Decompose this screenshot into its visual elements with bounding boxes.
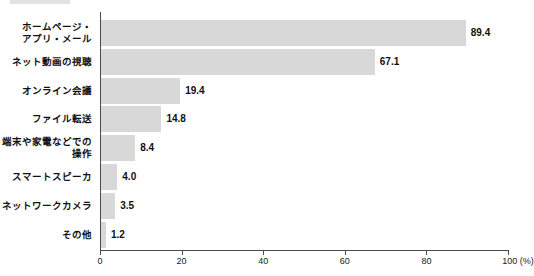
category-label: オンライン会議 — [0, 85, 92, 97]
bar-row: スマートスピーカ4.0 — [0, 164, 516, 190]
x-tick-100 — [508, 250, 509, 255]
category-label: ファイル転送 — [0, 113, 92, 125]
x-tick-20 — [182, 250, 183, 255]
category-label: ネットワークカメラ — [0, 200, 92, 212]
x-tick-label-40: 40 — [258, 256, 268, 267]
value-label: 3.5 — [120, 200, 134, 212]
bar — [101, 106, 161, 132]
bar — [101, 193, 115, 219]
value-label: 8.4 — [140, 142, 154, 154]
value-label: 1.2 — [111, 229, 125, 241]
bar — [101, 222, 106, 248]
value-label: 4.0 — [122, 171, 136, 183]
x-tick-40 — [263, 250, 264, 255]
category-label: ホームページ・ アプリ・メール — [0, 21, 92, 45]
x-tick-label-20: 20 — [177, 256, 187, 267]
category-label: ネット動画の視聴 — [0, 56, 92, 68]
x-tick-label-100: 100 (%) — [502, 256, 534, 267]
bar — [101, 135, 135, 161]
x-tick-label-80: 80 — [421, 256, 431, 267]
value-label: 19.4 — [185, 85, 204, 97]
category-label: 端末や家電などでの 操作 — [0, 136, 92, 160]
bar-row: 端末や家電などでの 操作8.4 — [0, 135, 516, 161]
bar — [101, 49, 375, 75]
bar — [101, 20, 466, 46]
bar-row: オンライン会議19.4 — [0, 78, 516, 104]
x-tick-80 — [426, 250, 427, 255]
bar-row: ファイル転送14.8 — [0, 106, 516, 132]
bar — [101, 164, 117, 190]
x-tick-60 — [345, 250, 346, 255]
category-label: スマートスピーカ — [0, 171, 92, 183]
category-label: その他 — [0, 229, 92, 241]
bar-row: ネットワークカメラ3.5 — [0, 193, 516, 219]
x-tick-label-60: 60 — [340, 256, 350, 267]
bar-row: その他1.2 — [0, 222, 516, 248]
bar-row: ホームページ・ アプリ・メール89.4 — [0, 20, 516, 46]
value-label: 89.4 — [471, 27, 490, 39]
top-edge-artifact — [10, 0, 70, 4]
x-tick-label-0: 0 — [97, 256, 102, 267]
x-axis-line — [100, 250, 509, 251]
value-label: 67.1 — [380, 56, 399, 68]
x-tick-0 — [100, 250, 101, 255]
value-label: 14.8 — [166, 113, 185, 125]
bar — [101, 78, 180, 104]
bar-row: ネット動画の視聴67.1 — [0, 49, 516, 75]
